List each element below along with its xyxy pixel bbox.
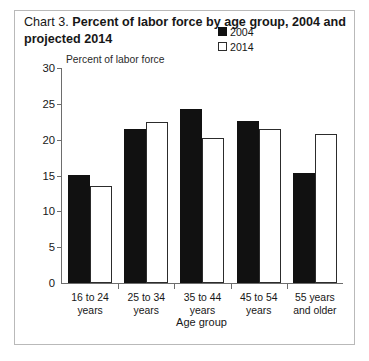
chart-title: Chart 3. Percent of labor force by age g…	[24, 14, 349, 47]
y-axis-tick-label: 20	[42, 134, 55, 146]
bar-group	[62, 68, 118, 283]
bar-2014-25-to-34-years	[146, 122, 168, 283]
bar-2014-45-to-54-years	[259, 129, 281, 283]
x-axis-label: Age group	[61, 316, 342, 328]
x-axis-separator	[174, 283, 175, 289]
bar-2004-45-to-54-years	[237, 121, 259, 283]
bar-group	[231, 68, 287, 283]
y-axis-tick-label: 25	[42, 98, 55, 110]
y-axis-tick-label: 0	[49, 277, 55, 289]
y-axis-tick-label: 5	[49, 241, 55, 253]
bar-2014-35-to-44-years	[202, 138, 224, 283]
y-axis-tick-label: 15	[42, 170, 55, 182]
legend-label-2014: 2014	[230, 41, 254, 53]
bars-layer	[62, 68, 343, 283]
bar-2004-25-to-34-years	[124, 129, 146, 283]
x-axis-separator	[231, 283, 232, 289]
bar-group	[287, 68, 343, 283]
y-axis-tick-label: 10	[42, 205, 55, 217]
x-axis-category-label: 16 to 24years	[58, 292, 122, 317]
chart-title-main: Percent of labor force by age group, 200…	[24, 15, 346, 46]
x-axis-category-label: 35 to 44years	[171, 292, 235, 317]
chart-title-prefix: Chart 3.	[24, 15, 69, 29]
y-axis-label: Percent of labor force	[66, 54, 164, 65]
legend-item-2014: 2014	[218, 40, 254, 53]
legend-swatch-filled-square-icon	[218, 27, 227, 36]
x-axis-category-label: 55 yearsand older	[283, 292, 347, 317]
plot-area: 051015202530 16 to 24years25 to 34years3…	[61, 68, 343, 284]
bar-group	[174, 68, 230, 283]
y-axis-tick-label: 30	[42, 62, 55, 74]
x-axis-separator	[287, 283, 288, 289]
x-axis-category-label: 45 to 54years	[227, 292, 291, 317]
chart-legend: 2004 2014	[218, 25, 254, 55]
legend-swatch-hollow-square-icon	[218, 42, 227, 51]
bar-group	[118, 68, 174, 283]
bar-2014-16-to-24-years	[90, 186, 112, 283]
bar-2014-55-years-and-older	[315, 134, 337, 283]
x-axis-separator	[118, 283, 119, 289]
legend-label-2004: 2004	[230, 26, 254, 38]
chart-frame: Chart 3. Percent of labor force by age g…	[14, 10, 355, 345]
x-axis-category-label: 25 to 34years	[114, 292, 178, 317]
bar-2004-35-to-44-years	[180, 109, 202, 283]
bar-2004-55-years-and-older	[293, 173, 315, 283]
bar-2004-16-to-24-years	[68, 175, 90, 283]
legend-item-2004: 2004	[218, 25, 254, 38]
